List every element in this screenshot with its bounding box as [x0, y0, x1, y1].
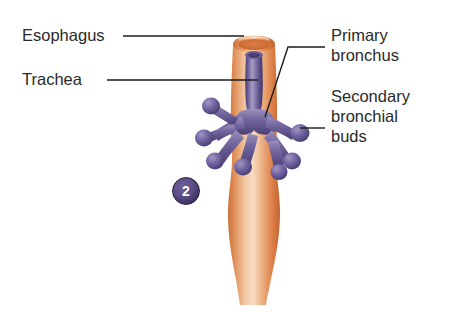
- esophagus-lumen: [239, 39, 270, 50]
- bud-left-upper: [202, 98, 220, 115]
- bud-left-lower: [206, 153, 224, 170]
- bud-center-lower: [234, 159, 252, 176]
- label-trachea-line-1: Trachea: [22, 69, 82, 89]
- label-esophagus-line-1: Esophagus: [22, 25, 105, 45]
- stage-number-badge: 2: [172, 177, 200, 205]
- bud-right-descending: [271, 164, 288, 180]
- bud-right-lower: [283, 153, 301, 170]
- label-secondary-line-3: buds: [331, 126, 410, 146]
- bud-right-upper: [291, 124, 310, 142]
- label-trachea: Trachea: [22, 69, 82, 89]
- label-primary-bronchus-line-2: bronchus: [331, 45, 399, 65]
- label-primary-bronchus: Primary bronchus: [331, 25, 399, 65]
- label-esophagus: Esophagus: [22, 25, 105, 45]
- label-secondary-line-1: Secondary: [331, 86, 410, 106]
- figure-canvas: Esophagus Trachea Primary bronchus Secon…: [0, 0, 455, 312]
- label-secondary-line-2: bronchial: [331, 106, 410, 126]
- bud-left-middle: [195, 130, 213, 147]
- label-primary-bronchus-line-1: Primary: [331, 25, 399, 45]
- label-secondary-bronchial-buds: Secondary bronchial buds: [331, 86, 410, 146]
- trachea-lumen: [248, 53, 259, 57]
